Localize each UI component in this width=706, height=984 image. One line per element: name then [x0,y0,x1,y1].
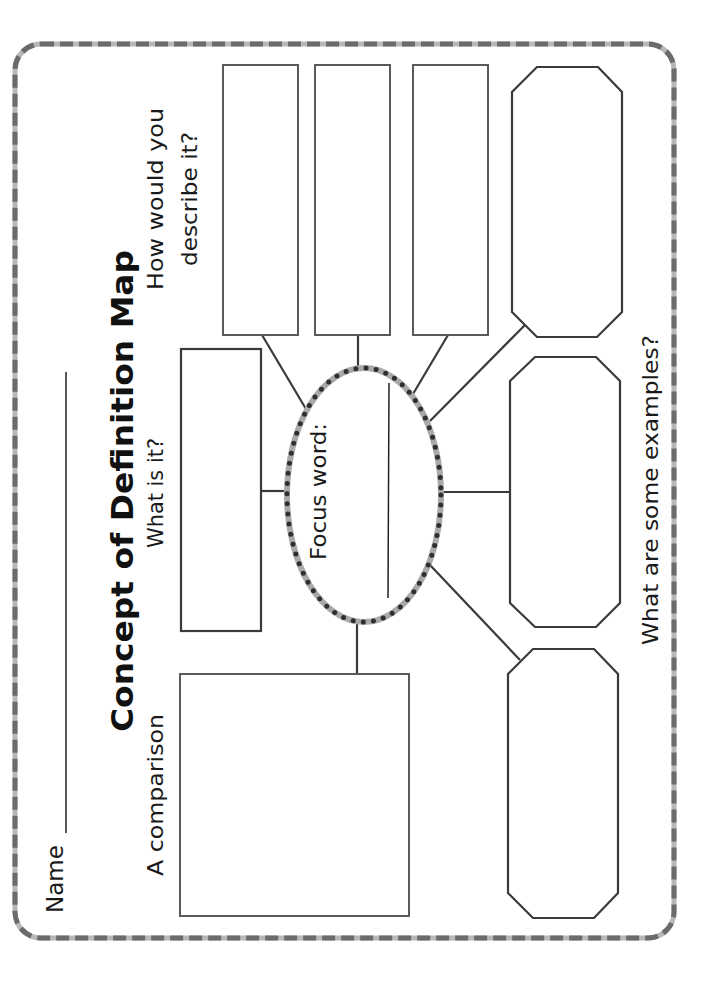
describe-box-3[interactable] [413,65,488,335]
comparison-box[interactable] [180,674,409,916]
example-box-1[interactable] [512,67,622,337]
example-box-2[interactable] [510,357,620,627]
prompt-describe-line2: describe it? [178,132,202,266]
page-title: Concept of Definition Map [104,250,140,732]
focus-word-label: Focus word: [307,423,331,560]
example-box-3[interactable] [508,649,618,918]
name-label: Name [42,845,68,913]
prompt-describe-line1: How would you [144,108,168,290]
prompt-what-is-it: What is it? [144,438,168,548]
prompt-examples: What are some examples? [639,335,663,645]
what-is-it-box[interactable] [181,349,261,631]
prompt-comparison: A comparison [144,714,168,876]
focus-word-line[interactable] [388,383,389,598]
describe-box-1[interactable] [223,65,298,335]
concept-definition-worksheet: Name Concept of Definition Map A compari… [0,0,706,984]
describe-box-2[interactable] [315,65,390,335]
